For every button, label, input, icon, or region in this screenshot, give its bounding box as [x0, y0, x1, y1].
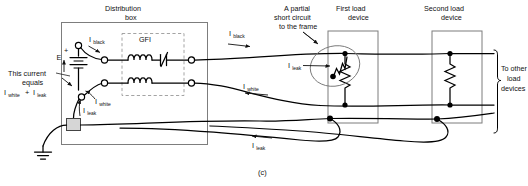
i-leak-return-label: I [252, 141, 254, 150]
second-load-title-line1: Second load [424, 4, 464, 13]
first-load-resistor [340, 56, 350, 105]
first-load-title-line2: device [348, 13, 369, 22]
white-line-switch-contact [101, 80, 107, 86]
ground-return-loop-second [210, 119, 448, 142]
short-circuit-title-line1: A partial [284, 4, 310, 13]
equation-first-sub: white [8, 92, 20, 98]
to-other-devices-brace [494, 50, 501, 133]
source-label: E [57, 53, 62, 62]
i-leak-box-sub: leak [87, 110, 97, 116]
second-load-enclosure [432, 31, 482, 123]
i-white-inside-sub: white [99, 101, 111, 107]
i-black-inside-label: I [89, 35, 91, 44]
short-circuit-leader-arrow [303, 32, 318, 44]
gfi-title: GFI [139, 35, 151, 44]
ground-return-loop-first [120, 119, 340, 142]
white-line-sense-coil [128, 78, 152, 83]
i-black-inside-arrow [89, 46, 101, 53]
distribution-box-title-line2: box [125, 13, 137, 22]
frame-contact-node [330, 74, 336, 80]
i-black-inside-sub: black [93, 39, 105, 45]
black-line-sense-coil [128, 55, 152, 60]
note-line2: equals [22, 78, 44, 87]
white-line-run-first-to-second [320, 105, 450, 106]
equation-plus: + [25, 88, 29, 97]
black-line-run-to-second-load [345, 54, 450, 55]
black-line-output-terminal [188, 57, 194, 63]
ground-return-run-middle [330, 118, 437, 119]
gfi-dashed-enclosure [122, 34, 184, 96]
i-black-outside-label: I [229, 29, 231, 38]
note-leader-line [56, 73, 70, 76]
white-line-output-terminal [188, 80, 194, 86]
equation-first-symbol: I [4, 88, 6, 97]
ground-bus-block [67, 119, 81, 131]
ground-return-run-right [437, 113, 494, 119]
white-line-switch-blade [84, 84, 102, 96]
to-other-line3: devices [501, 84, 526, 93]
i-white-inside-label: I [95, 97, 97, 106]
i-black-outside-sub: black [233, 33, 245, 39]
ground-return-run-left [81, 119, 331, 126]
i-black-outside-arrow [228, 44, 250, 47]
first-load-top-node [342, 51, 347, 56]
equation-second-sub: leak [37, 92, 47, 98]
i-leak-box-arrow [79, 100, 80, 117]
distribution-box-title-line1: Distribution [105, 4, 141, 13]
leak-wire-to-ground-block [74, 99, 80, 118]
i-leak-return-sub: leak [256, 145, 266, 151]
i-white-outside-label: I [243, 82, 245, 91]
short-circuit-title-line2: short circuit [274, 13, 311, 22]
black-line-run-to-first-load [195, 53, 346, 60]
second-load-top-node [447, 51, 452, 56]
note-leader-arrow [62, 78, 72, 86]
second-load-title-line2: device [441, 13, 462, 22]
i-leak-box-label: I [83, 106, 85, 115]
i-leak-load-arrow [303, 66, 330, 67]
first-load-title-line1: First load [336, 4, 366, 13]
to-other-line2: load [507, 74, 521, 83]
ground-wire [43, 125, 67, 146]
black-line-switch-contact [101, 57, 107, 63]
i-leak-load-sub: leak [292, 65, 302, 71]
source-plus-sign: + [64, 46, 68, 55]
figure-caption: (c) [258, 168, 267, 177]
circuit-diagram-svg: E + I black I white I leak This current … [0, 0, 528, 186]
equation-second-symbol: I [33, 88, 35, 97]
short-circuit-title-line3: to the frame [279, 22, 317, 31]
second-load-resistor [445, 56, 455, 105]
note-line1: This current [8, 69, 46, 78]
i-white-outside-sub: white [247, 86, 259, 92]
first-load-bottom-node [342, 102, 347, 107]
figure-container: E + I black I white I leak This current … [0, 0, 528, 186]
i-leak-load-label: I [288, 61, 290, 70]
to-other-line1: To other [501, 64, 528, 73]
